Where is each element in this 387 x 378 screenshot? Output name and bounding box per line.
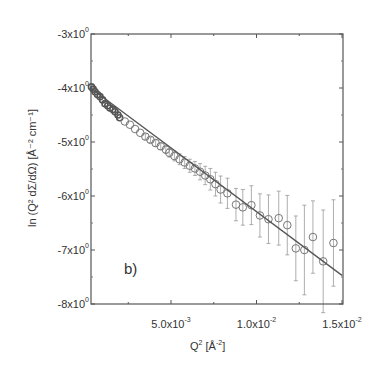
y-tick-label: -5x100 [58, 134, 90, 148]
y-tick-label: -3x100 [58, 26, 90, 40]
svg-text:ln (Q² dΣ/dΩ) [Å⁻² cm⁻¹]: ln (Q² dΣ/dΩ) [Å⁻² cm⁻¹] [26, 109, 38, 227]
x-axis-ticks: 5.0x10-31.0x10-21.5x10-2 [128, 34, 361, 330]
x-axis-label: Q2 [Å-2] [190, 339, 225, 352]
fit-line [91, 88, 342, 275]
data-series [88, 84, 337, 313]
data-point [131, 125, 139, 133]
x-tick-label: 1.0x10-2 [237, 316, 276, 330]
x-label-unit: [Å [202, 340, 216, 352]
y-tick-label: -7x100 [58, 242, 90, 256]
x-tick-label: 5.0x10-3 [151, 316, 190, 330]
panel-label: b) [124, 260, 137, 277]
data-point [136, 129, 144, 137]
y-tick-label: -8x100 [58, 296, 90, 310]
y-axis-label: ln (Q² dΣ/dΩ) [Å⁻² cm⁻¹] [26, 109, 38, 227]
y-tick-label: -6x100 [58, 188, 90, 202]
x-label-unit-close: ] [222, 340, 225, 352]
svg-text:Q2 [Å-2]: Q2 [Å-2] [190, 339, 225, 352]
fit-line-path [91, 88, 342, 275]
chart: -3x100-4x100-5x100-6x100-7x100-8x100 5.0… [0, 0, 387, 378]
x-tick-label: 1.5x10-2 [322, 316, 361, 330]
y-tick-label: -4x100 [58, 80, 90, 94]
